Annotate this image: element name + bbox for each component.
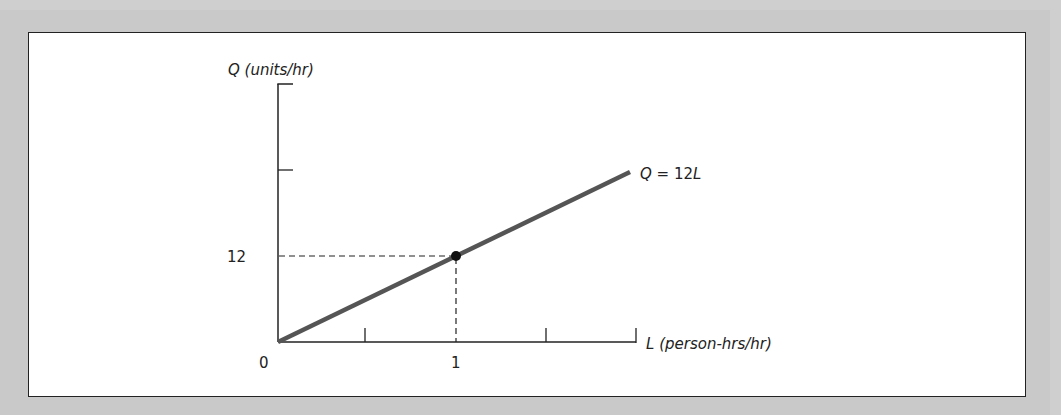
origin-label: 0	[259, 354, 269, 372]
x-tick-label-1: 1	[451, 354, 461, 372]
x-axis-label: L (person-hrs/hr)	[646, 335, 772, 353]
production-function-chart: Q (units/hr) 12 0 1 L (person-hrs/hr) Q …	[0, 0, 1061, 415]
line-label-q: Q	[640, 165, 652, 183]
line-label: Q = 12L	[640, 165, 701, 183]
line-label-eq: = 12	[652, 165, 693, 183]
y-axis-label: Q (units/hr)	[228, 61, 314, 79]
y-tick-label-12: 12	[227, 248, 246, 266]
highlight-point	[451, 251, 461, 261]
line-label-l: L	[693, 165, 701, 183]
